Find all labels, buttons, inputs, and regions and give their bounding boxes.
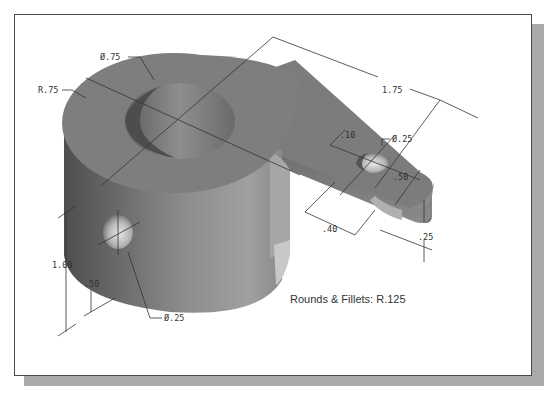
dim-arm-width: .50 [393, 172, 408, 182]
dim-cylinder-height: 1.00 [52, 260, 72, 270]
dim-arm-length: 1.75 [382, 85, 402, 95]
dim-fillet-offset: .40 [322, 224, 337, 234]
dim-small-hole-offset: .10 [340, 130, 355, 140]
dim-arm-thickness: .25 [418, 232, 433, 242]
part-drawing: Ø.75 R.75 1.75 Ø.25 .10 .50 .40 .25 1.00… [0, 0, 549, 393]
dim-small-hole-diameter: Ø.25 [392, 134, 412, 144]
dim-side-hole-diameter: Ø.25 [164, 313, 184, 323]
dim-bore-diameter: Ø.75 [100, 52, 120, 62]
arm-hole [356, 153, 388, 173]
dim-outer-radius: R.75 [38, 85, 58, 95]
rounds-fillets-note: Rounds & Fillets: R.125 [290, 293, 406, 305]
dim-side-hole-height: .50 [84, 279, 99, 289]
